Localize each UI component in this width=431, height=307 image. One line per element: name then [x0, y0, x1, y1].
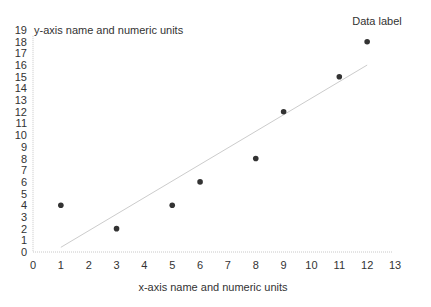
x-tick-label: 5	[169, 259, 175, 271]
x-tick-label: 9	[281, 259, 287, 271]
y-tick-label: 3	[21, 211, 27, 223]
data-point	[58, 202, 64, 208]
y-tick-label: 6	[21, 176, 27, 188]
y-tick-label: 1	[21, 234, 27, 246]
x-tick-label: 0	[30, 259, 36, 271]
y-tick-label: 13	[15, 94, 27, 106]
y-tick-label: 7	[21, 164, 27, 176]
data-point	[364, 39, 370, 45]
y-tick-label: 14	[15, 82, 27, 94]
y-tick-label: 17	[15, 47, 27, 59]
x-axis-label: x-axis name and numeric units	[138, 281, 288, 293]
data-point	[197, 179, 203, 185]
y-tick-label: 8	[21, 153, 27, 165]
x-tick-label: 3	[113, 259, 119, 271]
y-tick-label: 19	[15, 24, 27, 36]
x-tick-label: 4	[141, 259, 147, 271]
y-tick-label: 0	[21, 246, 27, 258]
x-tick-label: 1	[58, 259, 64, 271]
y-tick-label: 15	[15, 71, 27, 83]
x-tick-label: 7	[225, 259, 231, 271]
y-tick-label: 2	[21, 223, 27, 235]
y-tick-label: 11	[16, 117, 27, 129]
x-tick-label: 11	[334, 259, 345, 271]
data-point	[253, 156, 259, 162]
y-tick-label: 5	[21, 188, 27, 200]
x-tick-label: 12	[361, 259, 373, 271]
y-tick-label: 12	[15, 106, 27, 118]
x-tick-label: 8	[253, 259, 259, 271]
x-tick-label: 2	[86, 259, 92, 271]
y-tick-label: 9	[21, 141, 27, 153]
data-points	[58, 39, 370, 232]
trendline	[61, 65, 367, 247]
data-point	[281, 109, 287, 115]
y-tick-label: 10	[15, 129, 27, 141]
x-tick-label: 6	[197, 259, 203, 271]
y-axis-label: y-axis name and numeric units	[34, 24, 184, 36]
x-tick-label: 13	[389, 259, 401, 271]
y-axis-ticks: 012345678910111213141516171819	[15, 24, 27, 258]
scatter-chart: 012345678910111213141516171819 012345678…	[0, 0, 431, 307]
data-label-annotation: Data label	[352, 15, 402, 27]
x-axis-ticks: 012345678910111213	[30, 259, 401, 271]
x-tick-label: 10	[305, 259, 317, 271]
y-tick-label: 16	[15, 59, 27, 71]
data-point	[337, 74, 343, 80]
y-tick-label: 18	[15, 36, 27, 48]
y-tick-label: 4	[21, 199, 27, 211]
data-point	[169, 202, 175, 208]
data-point	[114, 226, 120, 232]
